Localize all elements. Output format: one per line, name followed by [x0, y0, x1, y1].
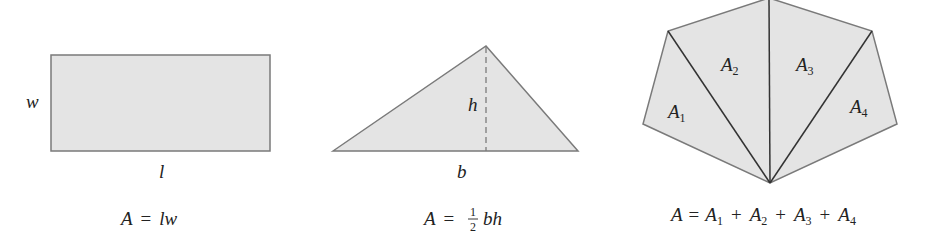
rectangle-figure: w l A = lw [26, 55, 270, 229]
rectangle-length-label: l [159, 161, 164, 182]
triangle-height-label: h [468, 94, 478, 115]
svg-text:A =: A = [422, 208, 454, 229]
triangle-figure: h b A = 1 2 bh [333, 46, 578, 234]
area-formulas-diagram: w l A = lw h b A = 1 2 bh A1 [0, 0, 931, 240]
triangle-formula-rhs: bh [483, 208, 502, 229]
triangle-base-label: b [457, 161, 467, 182]
polygon-formula: A = A1 + A2 + A3 + A4 [669, 204, 856, 228]
triangle-formula: A = 1 2 bh [422, 205, 502, 234]
fraction-denominator: 2 [470, 220, 476, 234]
fraction-numerator: 1 [470, 205, 476, 219]
rectangle-formula: A = lw [119, 208, 178, 229]
rectangle-shape [51, 55, 270, 151]
diagonal-2 [769, 0, 770, 183]
triangle-shape [333, 46, 578, 151]
rectangle-width-label: w [26, 91, 39, 112]
polygon-figure: A1 A2 A3 A4 A = A1 + A2 + A3 + A4 [643, 0, 897, 228]
